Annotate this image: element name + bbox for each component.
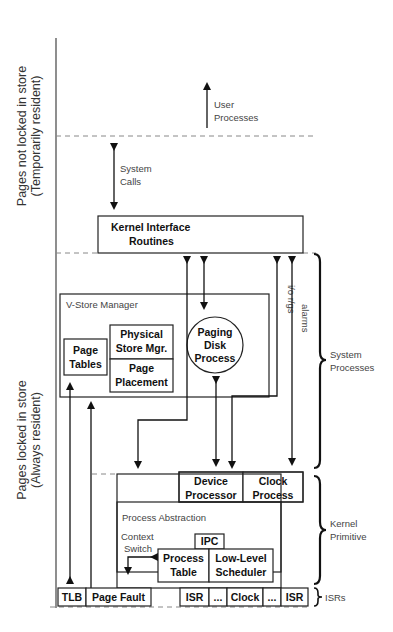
isr-clock-label: Clock bbox=[231, 591, 260, 603]
tlb-label: TLB bbox=[62, 591, 83, 603]
page-tables-label-1: Page bbox=[73, 344, 98, 356]
isrs-label: ISRs bbox=[325, 592, 346, 603]
kernel-interface-label-1: Kernel Interface bbox=[111, 221, 191, 233]
physical-store-mgr-label-1: Physical bbox=[120, 328, 163, 340]
brace-system-processes bbox=[314, 254, 326, 468]
device-processor-label-2: Processor bbox=[185, 489, 236, 501]
context-switch-label-2: Switch bbox=[124, 543, 152, 554]
process-table-label-1: Process bbox=[163, 552, 204, 564]
process-table-label-2: Table bbox=[170, 566, 197, 578]
device-processor-label-1: Device bbox=[194, 475, 228, 487]
isr-label-2: ISR bbox=[286, 591, 304, 603]
context-switch-arrow bbox=[128, 557, 154, 571]
os-architecture-diagram: Pages not locked in store (Temporarily r… bbox=[0, 0, 393, 632]
clock-process-label-2: Process bbox=[253, 489, 294, 501]
system-calls-label-2: Calls bbox=[120, 176, 141, 187]
vstore-manager-label: V-Store Manager bbox=[66, 299, 138, 310]
paging-disk-process-label-2: Disk bbox=[204, 339, 226, 351]
page-placement-label-1: Page bbox=[129, 362, 154, 374]
brace-kernel-primitive bbox=[314, 476, 326, 584]
low-level-scheduler-label-1: Low-Level bbox=[215, 552, 266, 564]
side-label-not-locked: Pages not locked in store bbox=[15, 66, 29, 206]
physical-store-mgr-label-2: Store Mgr. bbox=[116, 342, 167, 354]
isr-ellipsis-label-1: ... bbox=[214, 591, 223, 603]
system-processes-label-2: Processes bbox=[330, 362, 375, 373]
low-level-scheduler-label-2: Scheduler bbox=[216, 566, 267, 578]
system-processes-label-1: System bbox=[330, 349, 362, 360]
isr-ellipsis-label-2: ... bbox=[268, 591, 277, 603]
side-label-temporarily-resident: (Temporarily resident) bbox=[29, 76, 43, 197]
context-switch-label-1: Context bbox=[121, 531, 154, 542]
side-label-locked: Pages locked in store bbox=[15, 380, 29, 500]
page-placement-label-2: Placement bbox=[115, 376, 168, 388]
user-processes-label-1: User bbox=[214, 99, 234, 110]
paging-disk-process-label-3: Process bbox=[195, 352, 236, 364]
brace-isrs bbox=[314, 588, 322, 606]
user-processes-label-2: Processes bbox=[214, 112, 259, 123]
kernel-interface-label-2: Routines bbox=[129, 235, 174, 247]
side-label-always-resident: (Always resident) bbox=[29, 392, 43, 488]
ipc-label: IPC bbox=[201, 535, 219, 547]
kernel-primitive-label-2: Primitive bbox=[330, 531, 366, 542]
isr-label-1: ISR bbox=[186, 591, 204, 603]
page-fault-label: Page Fault bbox=[92, 591, 146, 603]
clock-process-label-1: Clock bbox=[259, 475, 288, 487]
kernel-primitive-label-1: Kernel bbox=[330, 518, 357, 529]
process-abstraction-label: Process Abstraction bbox=[122, 512, 206, 523]
system-calls-label-1: System bbox=[120, 163, 152, 174]
paging-disk-process-label-1: Paging bbox=[197, 326, 232, 338]
page-tables-label-2: Tables bbox=[69, 358, 102, 370]
alarms-label: alarms bbox=[300, 304, 311, 333]
